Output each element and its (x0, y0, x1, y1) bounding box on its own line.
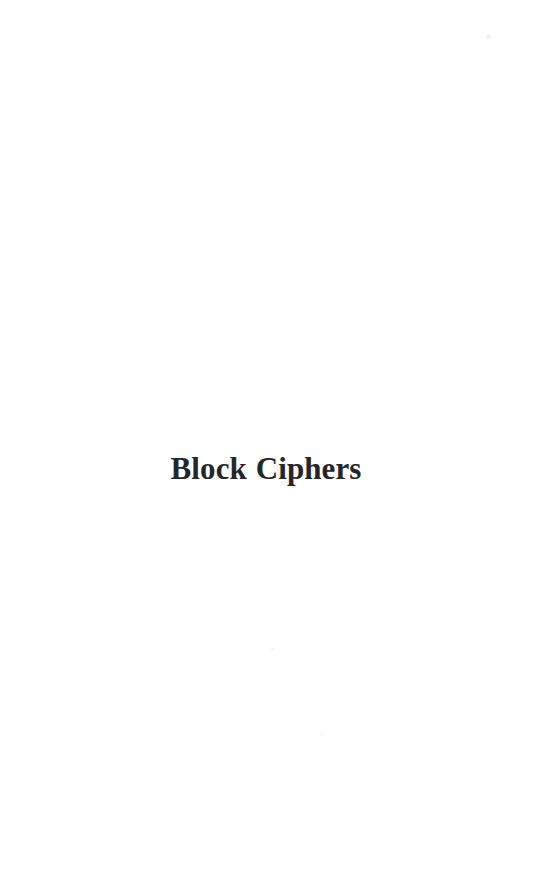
scan-speck-icon (321, 732, 324, 735)
page-title: Block Ciphers (0, 451, 537, 487)
scan-speck-icon (271, 647, 274, 651)
scan-speck-icon (486, 34, 491, 39)
scanned-page: Block Ciphers (0, 0, 542, 884)
